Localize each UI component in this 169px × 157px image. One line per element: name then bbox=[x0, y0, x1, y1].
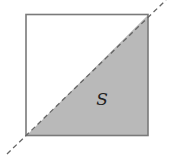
region-label-s: S bbox=[96, 89, 108, 109]
diagram-canvas: S bbox=[0, 0, 169, 157]
